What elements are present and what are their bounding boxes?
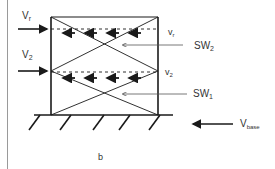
- shear-wall-diagram: Vr V2 vr v2 SW2 SW1 Vbase b: [0, 0, 275, 169]
- label-second-load: V2: [22, 49, 33, 61]
- ground-support: [29, 115, 173, 130]
- label-base-shear: Vbase: [240, 118, 260, 130]
- label-roof-load: Vr: [22, 10, 32, 22]
- diaphragm-shear-arrows: [63, 33, 141, 78]
- label-shear-wall-1: SW1: [193, 88, 213, 100]
- label-roof-shear: vr: [168, 27, 175, 38]
- figure-caption: b: [98, 152, 103, 162]
- frame: [51, 17, 158, 115]
- label-second-shear: v2: [165, 67, 174, 78]
- label-shear-wall-2: SW2: [194, 40, 214, 52]
